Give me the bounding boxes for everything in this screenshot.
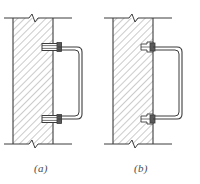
grab-handle-a [58,47,82,119]
wall-hatch-fill-b [113,18,153,144]
technical-drawing-figure: (a) (b) [0,0,200,184]
drawing-canvas [0,0,200,184]
wall-hatch-fill-a [13,18,53,144]
wall-section-a [13,18,53,144]
handle-inner-profile-b [155,50,179,116]
wall-section-b [113,18,153,144]
panel-b [104,14,182,148]
handle-outer-profile-b [153,47,182,119]
handle-outer-profile-a [58,47,82,119]
grab-handle-b [153,47,182,119]
panel-a [4,14,82,148]
handle-inner-profile-a [58,50,79,116]
